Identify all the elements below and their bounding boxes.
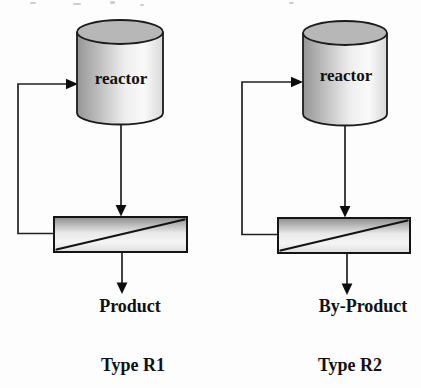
process-diagram-figure: reactor Product Type R1 reactor — [0, 0, 421, 388]
output-label-r2: By-Product — [319, 296, 408, 316]
reactor-cylinder-top-r1 — [77, 20, 163, 44]
recycle-line-r2 — [242, 82, 291, 235]
reactor-label-r2: reactor — [320, 66, 373, 85]
reactor-to-separator-arrowhead-r2 — [340, 206, 351, 218]
recycle-arrowhead-r2 — [291, 77, 303, 87]
scan-artifacts — [30, 1, 294, 6]
diagram-type-r1: reactor Product Type R1 — [18, 20, 187, 375]
separator-to-product-arrowhead-r1 — [117, 283, 128, 295]
diagram-type-r2: reactor By-Product Type R2 — [242, 21, 410, 375]
reactor-separator-diagram: reactor Product Type R1 reactor — [0, 0, 421, 388]
reactor-to-separator-arrowhead-r1 — [116, 205, 127, 217]
reactor-cylinder-top-r2 — [303, 21, 387, 45]
type-label-r2: Type R2 — [318, 355, 382, 375]
recycle-line-r1 — [18, 84, 66, 234]
type-label-r1: Type R1 — [101, 355, 165, 375]
reactor-label-r1: reactor — [95, 69, 148, 88]
separator-to-byproduct-arrowhead-r2 — [342, 284, 353, 296]
output-label-r1: Product — [99, 296, 161, 316]
